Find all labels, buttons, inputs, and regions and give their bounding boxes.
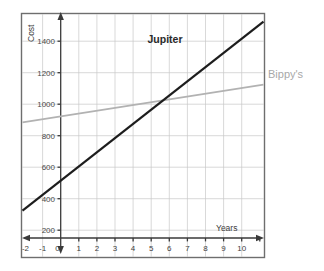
y-tick-label: 1000 — [37, 100, 55, 109]
x-tick-labels: -2 -1 0 1 2 3 4 5 6 7 8 9 10 — [22, 244, 247, 253]
x-tick-label: 2 — [95, 244, 100, 253]
line-chart: 200 400 600 800 1000 1200 1400 -2 -1 — [0, 0, 324, 271]
x-tick-label: 8 — [203, 244, 208, 253]
y-tick-label: 800 — [42, 132, 56, 141]
x-tick-label: 3 — [113, 244, 118, 253]
x-tick-label: 10 — [237, 244, 246, 253]
x-tick-label: 6 — [167, 244, 172, 253]
x-tick-label: -2 — [22, 244, 30, 253]
x-tick-label: 0 — [55, 244, 60, 253]
x-axis-title: Years — [216, 223, 237, 233]
x-tick-label: 9 — [221, 244, 226, 253]
y-tick-label: 600 — [42, 163, 56, 172]
y-tick-label: 200 — [42, 226, 56, 235]
x-tick-label: 5 — [149, 244, 154, 253]
series-label-jupiter: Jupiter — [147, 33, 182, 45]
x-tick-label: -1 — [39, 244, 47, 253]
y-axis-title: Cost — [26, 24, 36, 42]
y-tick-label: 1200 — [37, 69, 55, 78]
x-tick-label: 7 — [185, 244, 190, 253]
y-axis — [58, 12, 64, 254]
y-tick-label: 1400 — [37, 37, 55, 46]
series-label-bippys: Bippy's — [268, 68, 304, 80]
y-tick-label: 400 — [42, 195, 56, 204]
x-tick-label: 1 — [77, 244, 82, 253]
x-tick-label: 4 — [131, 244, 136, 253]
y-tick-labels: 200 400 600 800 1000 1200 1400 — [37, 37, 55, 235]
x-axis — [22, 235, 264, 241]
